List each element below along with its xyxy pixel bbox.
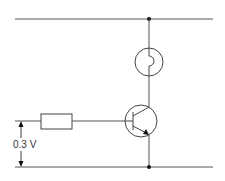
circuit-diagram: 0.3 V xyxy=(0,0,225,181)
bottom-junction-dot xyxy=(147,165,151,169)
resistor-icon xyxy=(41,114,72,129)
voltage-label: 0.3 V xyxy=(13,139,37,150)
npn-transistor-icon xyxy=(125,105,157,137)
lamp-icon xyxy=(135,48,163,76)
